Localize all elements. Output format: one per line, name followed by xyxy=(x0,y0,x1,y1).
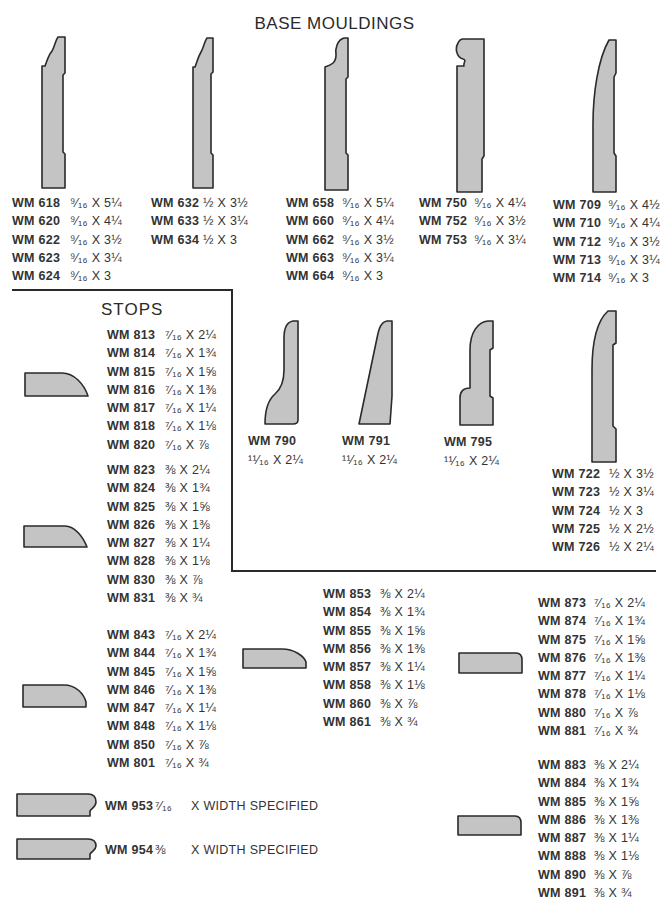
list-item: WM 874⁷⁄₁₆ X 1¾ xyxy=(538,612,645,630)
list-item: WM 658⁹⁄₁₆ X 5¼ xyxy=(286,194,394,212)
width-specified-953: WM 953⁷⁄₁₆X WIDTH SPECIFIED xyxy=(105,797,318,815)
list-item: WM 726½ X 2¼ xyxy=(552,538,654,556)
list-item: WM 828⅜ X 1⅛ xyxy=(107,552,210,570)
list-item: WM 884⅜ X 1¾ xyxy=(538,774,639,792)
list-item: WM 723½ X 3¼ xyxy=(552,483,654,501)
list-item: WM 709⁹⁄₁₆ X 4½ xyxy=(553,196,660,214)
list-item: WM 891⅜ X ¾ xyxy=(538,884,639,902)
base-group-632: WM 632½ X 3½ WM 633½ X 3¼ WM 634½ X 3 xyxy=(151,194,248,249)
list-item: WM 618⁹⁄₁₆ X 5¼ xyxy=(12,194,122,212)
base-group-750: WM 750⁹⁄₁₆ X 4¼ WM 752⁹⁄₁₆ X 3½ WM 753⁹⁄… xyxy=(419,194,526,249)
base-group-722: WM 722½ X 3½ WM 723½ X 3¼ WM 724½ X 3 WM… xyxy=(552,465,654,556)
list-item: WM 813⁷⁄₁₆ X 2¼ xyxy=(107,326,216,344)
profile-wm790-icon xyxy=(262,320,300,426)
list-item: WM 857⅜ X 1¼ xyxy=(323,658,425,676)
list-item: WM 816⁷⁄₁₆ X 1⅜ xyxy=(107,381,216,399)
list-item: WM 861⅜ X ¾ xyxy=(323,713,425,731)
profile-wm791-icon xyxy=(357,320,395,426)
list-item: WM 873⁷⁄₁₆ X 2¼ xyxy=(538,594,645,612)
list-item: WM 663⁹⁄₁₆ X 3¼ xyxy=(286,249,394,267)
profile-wm658-icon xyxy=(323,37,351,191)
list-item: WM 753⁹⁄₁₆ X 3¼ xyxy=(419,231,526,249)
list-item: WM 830⅜ X ⅞ xyxy=(107,571,210,589)
list-item: WM 722½ X 3½ xyxy=(552,465,654,483)
list-item: WM 660⁹⁄₁₆ X 4¼ xyxy=(286,212,394,230)
list-item: WM 815⁷⁄₁₆ X 1⅝ xyxy=(107,363,216,381)
profile-wm709-icon xyxy=(590,39,620,193)
list-item: WM 824⅜ X 1¾ xyxy=(107,479,210,497)
list-item: WM 883⅜ X 2¼ xyxy=(538,756,639,774)
list-item: WM 820⁷⁄₁₆ X ⅞ xyxy=(107,436,216,454)
list-item: WM 831⅜ X ¾ xyxy=(107,589,210,607)
list-item: WM 664⁹⁄₁₆ X 3 xyxy=(286,267,394,285)
list-item: WM 752⁹⁄₁₆ X 3½ xyxy=(419,212,526,230)
list-item: WM 856⅜ X 1⅜ xyxy=(323,640,425,658)
list-item: WM 623⁹⁄₁₆ X 3¼ xyxy=(12,249,122,267)
profile-wm722-icon xyxy=(590,310,620,464)
list-item: WM 624⁹⁄₁₆ X 3 xyxy=(12,267,122,285)
list-item: WM 886⅜ X 1⅜ xyxy=(538,811,639,829)
list-item: WM 632½ X 3½ xyxy=(151,194,248,212)
list-item: WM 853⅜ X 2¼ xyxy=(323,585,425,603)
list-item: WM 860⅜ X ⅞ xyxy=(323,695,425,713)
list-item: WM 843⁷⁄₁₆ X 2¼ xyxy=(107,626,216,644)
divider-vertical xyxy=(231,289,233,572)
list-item: WM 633½ X 3¼ xyxy=(151,212,248,230)
stop-profile-953-icon xyxy=(16,793,98,818)
list-item: WM 823⅜ X 2¼ xyxy=(107,461,210,479)
stop-group-843: WM 843⁷⁄₁₆ X 2¼ WM 844⁷⁄₁₆ X 1¾ WM 845⁷⁄… xyxy=(107,626,216,772)
list-item: WM 953⁷⁄₁₆X WIDTH SPECIFIED xyxy=(105,797,318,815)
list-item: WM 954⅜X WIDTH SPECIFIED xyxy=(105,841,318,859)
list-item: WM 817⁷⁄₁₆ X 1¼ xyxy=(107,399,216,417)
list-item: WM 880⁷⁄₁₆ X ⅞ xyxy=(538,704,645,722)
list-item: WM 622⁹⁄₁₆ X 3½ xyxy=(12,231,122,249)
stop-profile-954-icon xyxy=(16,838,98,861)
list-item: WM 725½ X 2½ xyxy=(552,520,654,538)
width-specified-954: WM 954⅜X WIDTH SPECIFIED xyxy=(105,841,318,859)
profile-wm795-icon xyxy=(458,320,496,428)
base-group-709: WM 709⁹⁄₁₆ X 4½ WM 710⁹⁄₁₆ X 4¼ WM 712⁹⁄… xyxy=(553,196,660,287)
list-item: WM 846⁷⁄₁₆ X 1⅜ xyxy=(107,681,216,699)
profile-wm618-icon xyxy=(40,36,68,190)
list-item: WM 825⅜ X 1⅝ xyxy=(107,498,210,516)
base-group-618: WM 618⁹⁄₁₆ X 5¼ WM 620⁹⁄₁₆ X 4¼ WM 622⁹⁄… xyxy=(12,194,122,285)
list-item: WM 827⅜ X 1¼ xyxy=(107,534,210,552)
base-group-658: WM 658⁹⁄₁₆ X 5¼ WM 660⁹⁄₁₆ X 4¼ WM 662⁹⁄… xyxy=(286,194,394,285)
list-item: WM 620⁹⁄₁₆ X 4¼ xyxy=(12,212,122,230)
stop-profile-883-icon xyxy=(457,815,523,837)
list-item: WM 875⁷⁄₁₆ X 1⅝ xyxy=(538,631,645,649)
stop-group-823: WM 823⅜ X 2¼ WM 824⅜ X 1¾ WM 825⅜ X 1⅝ W… xyxy=(107,461,210,607)
caption-wm791: WM 791 ¹¹⁄₁₆ X 2¼ xyxy=(342,432,397,470)
list-item: WM 801⁷⁄₁₆ X ¾ xyxy=(107,754,216,772)
list-item: WM 724½ X 3 xyxy=(552,502,654,520)
stop-group-853: WM 853⅜ X 2¼ WM 854⅜ X 1¾ WM 855⅜ X 1⅝ W… xyxy=(323,585,425,731)
list-item: WM 750⁹⁄₁₆ X 4¼ xyxy=(419,194,526,212)
list-item: WM 854⅜ X 1¾ xyxy=(323,603,425,621)
profile-wm632-icon xyxy=(190,37,216,189)
list-item: WM 887⅜ X 1¼ xyxy=(538,829,639,847)
stop-group-873: WM 873⁷⁄₁₆ X 2¼ WM 874⁷⁄₁₆ X 1¾ WM 875⁷⁄… xyxy=(538,594,645,740)
caption-wm790: WM 790 ¹¹⁄₁₆ X 2¼ xyxy=(248,432,303,470)
page-title: BASE MOULDINGS xyxy=(0,14,669,34)
stop-profile-873-icon xyxy=(458,652,524,675)
list-item: WM 713⁹⁄₁₆ X 3¼ xyxy=(553,251,660,269)
list-item: WM 858⅜ X 1⅛ xyxy=(323,676,425,694)
stop-profile-813-icon xyxy=(24,372,90,398)
caption-wm795: WM 795 ¹¹⁄₁₆ X 2¼ xyxy=(444,433,499,471)
list-item: WM 814⁷⁄₁₆ X 1¾ xyxy=(107,344,216,362)
list-item: WM 845⁷⁄₁₆ X 1⅝ xyxy=(107,663,216,681)
list-item: WM 848⁷⁄₁₆ X 1⅛ xyxy=(107,717,216,735)
list-item: WM 888⅜ X 1⅛ xyxy=(538,847,639,865)
list-item: WM 881⁷⁄₁₆ X ¾ xyxy=(538,722,645,740)
list-item: WM 850⁷⁄₁₆ X ⅞ xyxy=(107,736,216,754)
list-item: WM 710⁹⁄₁₆ X 4¼ xyxy=(553,214,660,232)
divider-bottom-base xyxy=(231,570,656,572)
stop-profile-823-icon xyxy=(23,525,89,549)
list-item: WM 826⅜ X 1⅜ xyxy=(107,516,210,534)
stops-title: STOPS xyxy=(101,300,163,320)
list-item: WM 847⁷⁄₁₆ X 1¼ xyxy=(107,699,216,717)
list-item: WM 712⁹⁄₁₆ X 3½ xyxy=(553,233,660,251)
stop-profile-853-icon xyxy=(242,648,308,670)
list-item: WM 890⅜ X ⅞ xyxy=(538,866,639,884)
list-item: WM 844⁷⁄₁₆ X 1¾ xyxy=(107,644,216,662)
